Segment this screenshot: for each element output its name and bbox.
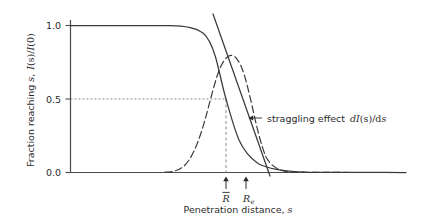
straggling-math-args: (s)/d — [360, 113, 382, 124]
y-axis-title-num-arg: (s) — [25, 54, 36, 66]
y-axis-title-prefix: Fraction reaching — [25, 82, 36, 167]
x-axis-title-prefix: Penetration distance, — [184, 204, 288, 215]
range-markers: R Re — [221, 177, 254, 207]
straggling-math-s: s — [381, 113, 386, 124]
straggling-annotation: straggling effectdI(s)/ds — [249, 113, 387, 124]
y-tick-label-05: 0.5 — [46, 94, 61, 105]
mean-range-label: R — [221, 193, 229, 204]
transmission-curve — [71, 26, 407, 173]
x-axis-title-var: s — [288, 204, 293, 215]
mean-range-arrow-head — [223, 177, 229, 182]
extrapolated-range-arrow-head — [243, 177, 249, 182]
axes-group — [66, 20, 407, 173]
straggling-annotation-text: straggling effectdI(s)/ds — [267, 113, 386, 124]
y-axis-title: Fraction reaching s, I(s)/I(0) — [25, 33, 36, 167]
chart-figure: 1.0 0.5 0.0 R Re — [0, 0, 426, 219]
x-axis-title: Penetration distance, s — [184, 204, 293, 215]
y-tick-labels: 1.0 0.5 0.0 — [46, 20, 61, 178]
y-axis-title-sep: , — [25, 71, 36, 77]
y-tick-label-0: 0.0 — [46, 167, 61, 178]
chart-svg: 1.0 0.5 0.0 R Re — [0, 0, 426, 219]
tangent-line — [213, 14, 270, 176]
y-axis-title-den-arg: (0) — [25, 33, 36, 46]
y-tick-label-1: 1.0 — [46, 20, 61, 31]
mean-range-marker: R — [221, 177, 229, 205]
extrapolated-range-marker: Re — [242, 177, 255, 207]
extrapolated-range-letter: R — [242, 193, 250, 204]
straggling-annotation-label: straggling effect — [267, 113, 345, 124]
